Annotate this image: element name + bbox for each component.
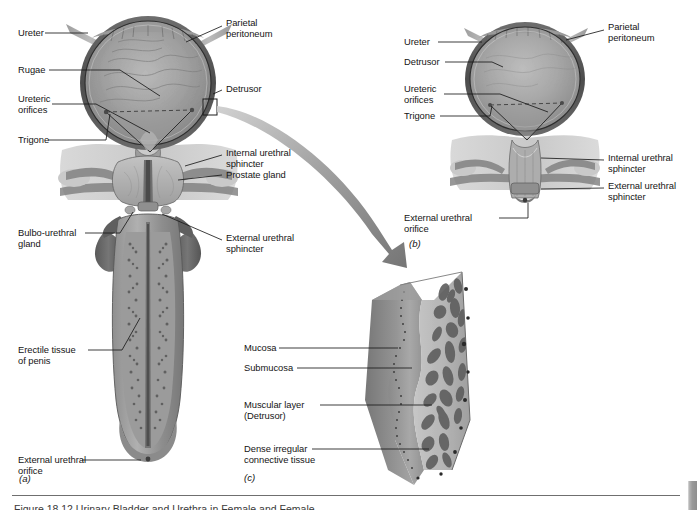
figure-caption: Figure 18.12 Urinary Bladder and Urethra… [14, 503, 674, 510]
label-panel-a-bulbo-urethral-gland: Bulbo-urethral gland [18, 228, 76, 249]
bulbourethral-gland-right [161, 206, 171, 214]
label-panel-a-internal-urethral-sphincter: Internal urethral sphincter [226, 148, 291, 169]
label-panel-a-ureteric-orifices: Ureteric orifices [18, 94, 50, 115]
label-panel-b-detrusor: Detrusor [404, 57, 440, 68]
ureteric-orifice-left-b [488, 103, 492, 107]
label-panel-a-parietal-peritoneum: Parietal peritoneum [226, 18, 272, 39]
label-panel-b-internal-urethral-sphincter: Internal urethral sphincter [608, 153, 673, 174]
external-urethral-orifice-b [523, 198, 528, 203]
label-panel-b-ureteric-orifices: Ureteric orifices [404, 84, 436, 105]
ureteric-orifice-right-a [190, 108, 194, 112]
label-panel-c-submucosa: Submucosa [244, 363, 293, 374]
external-urethral-sphincter-a [138, 202, 158, 211]
scrollbar-thumb[interactable] [688, 481, 697, 510]
label-panel-a-trigone: Trigone [18, 135, 49, 146]
label-panel-b-trigone: Trigone [404, 111, 435, 122]
external-urethral-sphincter-b [511, 183, 539, 194]
panel-a-artwork [58, 16, 238, 462]
label-panel-c-dense-irregular-connective-tissue: Dense irregular connective tissue [244, 444, 315, 465]
figure-artwork [0, 0, 699, 510]
panel-letter-a: (a) [19, 473, 31, 484]
label-panel-b-parietal-peritoneum: Parietal peritoneum [608, 22, 654, 43]
label-panel-a-prostate-gland: Prostate gland [226, 170, 286, 181]
label-panel-b-external-urethral-orifice: External urethral orifice [404, 213, 472, 234]
panel-letter-b: (b) [409, 238, 421, 249]
panel-b-artwork [450, 22, 600, 203]
label-panel-a-external-urethral-sphincter: External urethral sphincter [226, 233, 294, 254]
label-panel-a-erectile-tissue-of-penis: Erectile tissue of penis [18, 345, 76, 366]
spongy-urethra [147, 224, 150, 446]
caption-rule [12, 495, 680, 496]
label-panel-b-ureter: Ureter [404, 37, 430, 48]
panel-letter-c: (c) [244, 472, 255, 483]
label-panel-a-rugae: Rugae [18, 65, 45, 76]
external-urethral-orifice-a [146, 457, 151, 462]
panel-c-artwork [365, 272, 470, 485]
ureteric-orifice-right-b [560, 101, 564, 105]
label-panel-a-ureter: Ureter [18, 28, 44, 39]
label-panel-c-mucosa: Mucosa [244, 343, 277, 354]
bulbourethral-gland-left [125, 206, 135, 214]
label-panel-c-muscular-layer: Muscular layer (Detrusor) [244, 400, 304, 421]
label-panel-a-detrusor: Detrusor [226, 84, 262, 95]
label-panel-b-external-urethral-sphincter: External urethral sphincter [608, 181, 676, 202]
anatomy-figure: Ureter Rugae Ureteric orifices Trigone B… [0, 0, 699, 510]
